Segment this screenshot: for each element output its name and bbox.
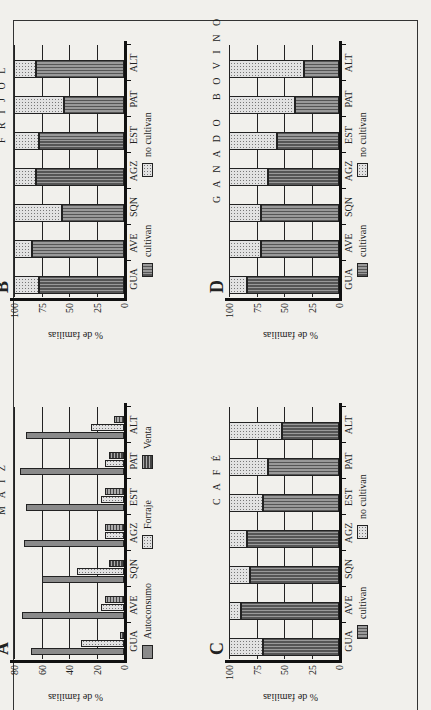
y-tick-label: 0 [119, 665, 130, 689]
legend-label: no cultivan [142, 112, 153, 157]
y-tick-label: 0 [334, 665, 345, 689]
legend-label: Autoconsumo [142, 583, 153, 639]
y-axis-title: % de familias [263, 692, 318, 703]
bar-autoconsumo [31, 648, 125, 655]
stacked-bar [229, 422, 339, 440]
x-tick-label: EST [128, 479, 139, 515]
x-tick-label: AVE [128, 225, 139, 261]
stacked-bar [229, 240, 339, 258]
y-tick-label: 80 [9, 665, 20, 689]
legend-item: Venta [142, 426, 153, 469]
x-tick-label: GUA [343, 261, 354, 297]
x-tick-label: SQN [128, 189, 139, 225]
stacked-bar [14, 240, 124, 258]
segment-cultivan [261, 240, 339, 258]
x-tick-label: ALT [128, 45, 139, 81]
segment-cultivan [247, 530, 339, 548]
x-tick-label: EST [128, 117, 139, 153]
y-tick-label: 50 [279, 303, 290, 327]
y-axis [10, 298, 126, 301]
bar-forraje [91, 424, 124, 431]
legend-swatch [357, 163, 368, 177]
segment-no-cultivan [229, 638, 263, 656]
chart-body: AM A I Z020406080% de familiasGUAAVESQNA… [0, 370, 197, 705]
legend: AutoconsumoForrajeVenta [142, 390, 158, 659]
x-tick-label: ALT [343, 407, 354, 443]
bar-forraje [105, 460, 124, 467]
segment-no-cultivan [14, 240, 32, 258]
legend-swatch [357, 625, 368, 639]
bar-autoconsumo [26, 432, 124, 439]
segment-no-cultivan [229, 494, 263, 512]
stacked-bar [229, 60, 339, 78]
legend: cultivanno cultivan [357, 390, 373, 659]
chart-title: C A F É [211, 452, 222, 505]
bar-autoconsumo [22, 612, 124, 619]
legend-item: Autoconsumo [142, 583, 153, 659]
x-tick-label: AVE [343, 225, 354, 261]
segment-no-cultivan [229, 422, 282, 440]
segment-no-cultivan [229, 530, 247, 548]
y-tick-label: 75 [251, 303, 262, 327]
legend: cultivanno cultivan [142, 28, 158, 297]
legend-label: cultivan [357, 225, 368, 257]
chart-title: F R I J O L [0, 65, 7, 143]
x-tick-label: AGZ [128, 153, 139, 189]
segment-cultivan [241, 602, 339, 620]
panel-letter: C [207, 642, 228, 655]
segment-cultivan [282, 422, 339, 440]
x-tick-label: AGZ [343, 153, 354, 189]
segment-no-cultivan [229, 602, 241, 620]
x-tick-label: SQN [343, 189, 354, 225]
y-tick-label: 50 [279, 665, 290, 689]
chart-body: BF R I J O L0255075100% de familiasGUAAV… [0, 8, 197, 343]
legend-label: no cultivan [357, 112, 368, 157]
segment-cultivan [32, 240, 124, 258]
stacked-bar [14, 60, 124, 78]
gridline [42, 407, 43, 659]
bar-venta [105, 488, 124, 495]
y-axis [225, 298, 341, 301]
segment-no-cultivan [229, 96, 295, 114]
stacked-bar [14, 204, 124, 222]
stacked-bar [229, 204, 339, 222]
y-axis-title: % de familias [263, 330, 318, 341]
legend-swatch [357, 525, 368, 539]
y-tick-label: 25 [306, 665, 317, 689]
segment-cultivan [268, 168, 340, 186]
y-tick-label: 50 [64, 303, 75, 327]
y-tick-label: 100 [224, 665, 235, 689]
panel-letter: D [207, 280, 228, 293]
segment-cultivan [64, 96, 125, 114]
stacked-bar [229, 494, 339, 512]
stacked-bar [229, 96, 339, 114]
x-tick-label: AVE [343, 587, 354, 623]
segment-no-cultivan [14, 276, 39, 294]
x-tick-label: AGZ [128, 515, 139, 551]
legend-item: cultivan [357, 587, 368, 639]
y-tick-label: 75 [36, 303, 47, 327]
stacked-bar [229, 458, 339, 476]
stacked-bar [229, 566, 339, 584]
x-tick-label: PAT [128, 81, 139, 117]
legend-label: Venta [142, 426, 153, 449]
legend-swatch [357, 263, 368, 277]
y-tick-label: 25 [306, 303, 317, 327]
stacked-bar [229, 168, 339, 186]
segment-cultivan [304, 60, 339, 78]
legend-swatch [142, 535, 153, 549]
plot-area: 0255075100% de familiasGUAAVESQNAGZESTPA… [229, 45, 339, 297]
segment-no-cultivan [229, 566, 250, 584]
chart-frijol: BF R I J O L0255075100% de familiasGUAAV… [0, 8, 197, 343]
legend-label: Forraje [142, 500, 153, 529]
y-tick-label: 75 [251, 665, 262, 689]
legend-label: no cultivan [357, 474, 368, 519]
segment-cultivan [36, 60, 124, 78]
legend: cultivanno cultivan [357, 28, 373, 297]
segment-no-cultivan [14, 204, 62, 222]
x-tick-label: ALT [128, 407, 139, 443]
chart-body: DG A N A D O B O V I N O0255075100% de f… [207, 8, 412, 343]
x-tick-label: SQN [128, 551, 139, 587]
stacked-bar [14, 132, 124, 150]
bar-forraje [101, 496, 124, 503]
